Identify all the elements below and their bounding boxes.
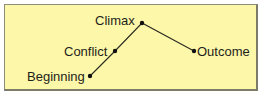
climax-point-icon [140,21,144,25]
beginning-label: Beginning [27,70,85,83]
climax-label: Climax [95,14,135,27]
outcome-label: Outcome [197,45,250,58]
conflict-point-icon [113,49,117,53]
conflict-label: Conflict [64,45,107,58]
outcome-point-icon [192,49,196,53]
beginning-point-icon [88,74,92,78]
